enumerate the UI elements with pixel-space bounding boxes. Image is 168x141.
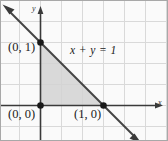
equation-label: x + y = 1	[70, 45, 117, 57]
point-label-y-intercept: (0, 1)	[8, 41, 35, 54]
point-marker-0-1	[37, 39, 44, 46]
graph-figure: (0, 1) (0, 0) (1, 0) x + y = 1 x y	[0, 0, 168, 141]
point-label-x-intercept: (1, 0)	[74, 108, 101, 121]
y-axis-label: y	[32, 5, 36, 13]
point-label-origin: (0, 0)	[8, 108, 35, 121]
x-axis-label: x	[158, 99, 162, 107]
point-marker-0-0	[37, 102, 44, 109]
point-marker-1-0	[100, 102, 107, 109]
